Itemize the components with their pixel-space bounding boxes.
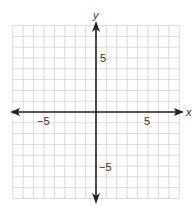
- x-axis-label: x: [185, 106, 192, 118]
- x-tick-label-pos5: 5: [144, 115, 150, 127]
- y-tick-label-neg5: −5: [99, 161, 112, 173]
- coordinate-plane: y x −5 5 5 −5: [0, 0, 196, 210]
- y-axis-label: y: [92, 9, 100, 21]
- y-tick-label-pos5: 5: [100, 52, 106, 64]
- x-tick-label-neg5: −5: [37, 115, 50, 127]
